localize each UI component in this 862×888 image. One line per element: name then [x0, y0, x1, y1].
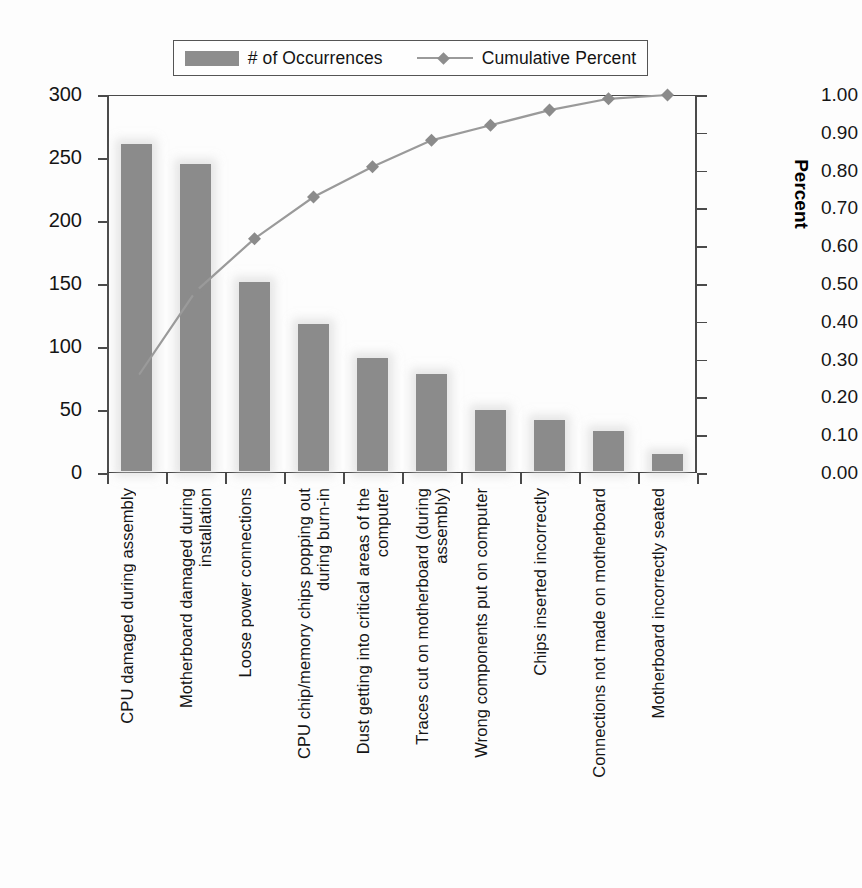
x-axis-category-label: CPU damaged during assembly	[118, 488, 137, 724]
x-axis-category-label: Loose power connections	[236, 488, 255, 677]
x-axis-category-label: Wrong components put on computer	[472, 488, 491, 758]
y-tick-label-right: 0.80	[821, 159, 862, 181]
y-tick-label-left: 100	[12, 335, 82, 358]
x-tick	[697, 473, 699, 484]
y-tick-label-left: 250	[12, 146, 82, 169]
y-axis-title-right: Percent	[790, 159, 812, 229]
y-tick-label-right: 0.10	[821, 424, 862, 446]
chart-legend: # of Occurrences Cumulative Percent	[173, 40, 648, 76]
y-tick-right	[697, 435, 707, 437]
y-tick-right	[697, 322, 707, 324]
x-tick	[520, 473, 522, 484]
y-tick-left	[98, 410, 107, 412]
y-tick-label-right: 0.50	[821, 273, 862, 295]
y-tick-label-right: 0.00	[821, 462, 862, 484]
y-tick-label-right: 0.90	[821, 121, 862, 143]
y-tick-left	[98, 221, 107, 223]
y-tick-left	[98, 158, 107, 160]
cumulative-line-series	[107, 95, 697, 473]
y-tick-label-right: 0.30	[821, 348, 862, 370]
x-tick	[638, 473, 640, 484]
cumulative-marker	[661, 88, 674, 101]
legend-line-diamond-icon	[417, 51, 473, 65]
y-tick-left	[98, 473, 107, 475]
y-tick-right	[697, 360, 707, 362]
y-tick-label-left: 0	[12, 461, 82, 484]
cumulative-marker	[484, 119, 497, 132]
legend-entry-occurrences: # of Occurrences	[185, 48, 383, 69]
x-axis-category-label: Motherboard incorrectly seated	[649, 488, 668, 718]
cumulative-line-path	[137, 95, 668, 379]
legend-label-occurrences: # of Occurrences	[248, 48, 383, 69]
legend-label-cumulative: Cumulative Percent	[482, 48, 637, 69]
y-tick-label-left: 200	[12, 209, 82, 232]
cumulative-marker	[602, 92, 615, 105]
y-tick-right	[697, 133, 707, 135]
y-tick-right	[697, 397, 707, 399]
y-tick-label-right: 0.40	[821, 310, 862, 332]
x-tick	[284, 473, 286, 484]
y-tick-right	[697, 284, 707, 286]
y-tick-right	[697, 95, 707, 97]
x-tick	[166, 473, 168, 484]
cumulative-marker	[425, 134, 438, 147]
y-tick-left	[98, 347, 107, 349]
y-tick-right	[697, 208, 707, 210]
plot-area: 050100150200250300 0.000.100.200.300.400…	[107, 95, 697, 473]
y-tick-right	[697, 246, 707, 248]
y-tick-label-left: 300	[12, 83, 82, 106]
y-tick-label-left: 150	[12, 272, 82, 295]
x-axis-category-label: Connections not made on motherboard	[590, 488, 609, 778]
x-tick	[461, 473, 463, 484]
x-tick	[107, 473, 109, 484]
y-tick-label-right: 0.20	[821, 386, 862, 408]
y-tick-left	[98, 95, 107, 97]
legend-bar-swatch-icon	[185, 51, 239, 66]
y-tick-label-right: 1.00	[821, 84, 862, 106]
x-axis-category-label: Motherboard damaged during installation	[177, 488, 215, 708]
x-axis-category-label: Dust getting into critical areas of the …	[354, 488, 392, 754]
y-tick-label-right: 0.70	[821, 197, 862, 219]
y-tick-label-right: 0.60	[821, 235, 862, 257]
cumulative-marker	[543, 104, 556, 117]
y-tick-left	[98, 284, 107, 286]
cumulative-marker	[366, 160, 379, 173]
x-tick	[579, 473, 581, 484]
x-axis-category-label: Chips inserted incorrectly	[531, 488, 550, 676]
x-axis-category-label: Traces cut on motherboard (during assemb…	[413, 488, 451, 745]
x-axis-category-label: CPU chip/memory chips popping out during…	[295, 488, 333, 759]
y-tick-right	[697, 171, 707, 173]
x-tick	[343, 473, 345, 484]
y-tick-label-left: 50	[12, 398, 82, 421]
x-tick	[225, 473, 227, 484]
x-tick	[402, 473, 404, 484]
legend-entry-cumulative: Cumulative Percent	[417, 48, 637, 69]
cumulative-marker	[130, 372, 143, 385]
